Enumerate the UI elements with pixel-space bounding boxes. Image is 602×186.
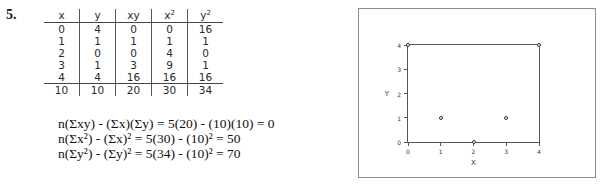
statistics-table: x y xy x2 y2 0 4 0 0 16 1 1 1 1 1 bbox=[44, 9, 223, 96]
x-axis-tick bbox=[408, 142, 409, 146]
x-axis-tick bbox=[440, 142, 441, 146]
cell-xy: 3 bbox=[116, 59, 152, 71]
cell-y: 1 bbox=[80, 35, 116, 47]
x-axis-tick-label: 4 bbox=[537, 148, 541, 155]
cell-x: 2 bbox=[44, 47, 80, 59]
cell-x-squared: 0 bbox=[152, 23, 188, 36]
cell-x: 0 bbox=[44, 23, 80, 36]
table-row: 4 4 16 16 16 bbox=[44, 71, 223, 84]
equations-block: n(Σxy) - (Σx)(Σy) = 5(20) - (10)(10) = 0… bbox=[58, 116, 275, 161]
total-y: 10 bbox=[80, 84, 116, 97]
solution-panel: 5. x y xy x2 y2 0 4 0 0 16 1 1 1 1 bbox=[0, 0, 348, 186]
table-header-row: x y xy x2 y2 bbox=[44, 9, 223, 23]
x-axis-tick bbox=[539, 142, 540, 146]
x-axis-tick bbox=[506, 142, 507, 146]
cell-x-squared: 16 bbox=[152, 71, 188, 84]
total-x-squared: 30 bbox=[152, 84, 188, 97]
cell-y-squared: 1 bbox=[188, 59, 224, 71]
y-axis-tick bbox=[404, 93, 408, 94]
cell-x-squared: 9 bbox=[152, 59, 188, 71]
column-header-x-squared: x2 bbox=[152, 9, 188, 23]
total-xy: 20 bbox=[116, 84, 152, 97]
y-axis-tick-label: 3 bbox=[397, 66, 401, 73]
problem-number: 5. bbox=[6, 7, 17, 23]
cell-xy: 0 bbox=[116, 47, 152, 59]
scatter-plot-panel: Y X 0123401234 bbox=[358, 8, 596, 178]
y-axis-tick-label: 1 bbox=[397, 114, 401, 121]
cell-y-squared: 16 bbox=[188, 23, 224, 36]
cell-x: 4 bbox=[44, 71, 80, 84]
equation-sxy: n(Σxy) - (Σx)(Σy) = 5(20) - (10)(10) = 0 bbox=[58, 116, 275, 131]
x-axis-title: X bbox=[471, 159, 476, 167]
cell-xy: 16 bbox=[116, 71, 152, 84]
y-axis-tick-label: 4 bbox=[397, 42, 401, 49]
y-axis-tick bbox=[404, 69, 408, 70]
table-row: 3 1 3 9 1 bbox=[44, 59, 223, 71]
data-point bbox=[439, 116, 443, 120]
y-axis-tick-label: 0 bbox=[397, 139, 401, 146]
equation-sy-squared: n(Σy²) - (Σy)² = 5(34) - (10)² = 70 bbox=[58, 146, 275, 161]
table-totals-row: 10 10 20 30 34 bbox=[44, 84, 223, 97]
x-axis-tick-label: 2 bbox=[472, 148, 476, 155]
y-axis-tick-label: 2 bbox=[397, 90, 401, 97]
cell-x: 3 bbox=[44, 59, 80, 71]
data-point bbox=[406, 43, 410, 47]
x-axis-tick-label: 3 bbox=[504, 148, 508, 155]
data-point bbox=[537, 43, 541, 47]
table-row: 1 1 1 1 1 bbox=[44, 35, 223, 47]
table-row: 2 0 0 4 0 bbox=[44, 47, 223, 59]
cell-y-squared: 0 bbox=[188, 47, 224, 59]
data-point bbox=[472, 140, 476, 144]
cell-y-squared: 16 bbox=[188, 71, 224, 84]
total-y-squared: 34 bbox=[188, 84, 224, 97]
cell-xy: 1 bbox=[116, 35, 152, 47]
y-axis-tick bbox=[404, 117, 408, 118]
cell-xy: 0 bbox=[116, 23, 152, 36]
equation-sx-squared: n(Σx²) - (Σx)² = 5(30) - (10)² = 50 bbox=[58, 131, 275, 146]
column-header-y-squared: y2 bbox=[188, 9, 224, 23]
total-x: 10 bbox=[44, 84, 80, 97]
y-axis-title: Y bbox=[385, 90, 389, 98]
cell-x-squared: 4 bbox=[152, 47, 188, 59]
x-axis-tick-label: 1 bbox=[439, 148, 443, 155]
plot-axes-area: Y X 0123401234 bbox=[407, 44, 540, 143]
column-header-y: y bbox=[80, 9, 116, 23]
cell-x-squared: 1 bbox=[152, 35, 188, 47]
column-header-xy: xy bbox=[116, 9, 152, 23]
column-header-x: x bbox=[44, 9, 80, 23]
data-point bbox=[504, 116, 508, 120]
cell-y: 4 bbox=[80, 71, 116, 84]
cell-y: 1 bbox=[80, 59, 116, 71]
table-row: 0 4 0 0 16 bbox=[44, 23, 223, 36]
cell-y-squared: 1 bbox=[188, 35, 224, 47]
cell-x: 1 bbox=[44, 35, 80, 47]
x-axis-tick-label: 0 bbox=[406, 148, 410, 155]
cell-y: 0 bbox=[80, 47, 116, 59]
cell-y: 4 bbox=[80, 23, 116, 36]
